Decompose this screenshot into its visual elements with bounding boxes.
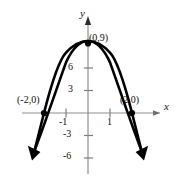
y-tick-label-minus-3: -3: [63, 129, 71, 139]
y-axis-arrowhead: [85, 16, 91, 25]
point-label-x-intercept-left: (-2,0): [17, 95, 40, 105]
y-tick-label-minus-6: -6: [63, 151, 71, 161]
point-label-x-intercept-right: (2,0): [120, 95, 139, 105]
parabola-figure: y x 6 3 -3 -6 -1 1 (0,9) (-2,0) (2,0): [0, 0, 176, 176]
y-tick-label-6: 6: [68, 62, 73, 72]
point-dot-x-intercept-left: [41, 110, 47, 116]
x-tick-label-minus-1: -1: [59, 117, 67, 127]
graph-canvas: [0, 0, 176, 176]
x-axis-arrowhead: [153, 110, 160, 116]
point-dot-x-intercept-right: [129, 110, 135, 116]
x-tick-label-1: 1: [107, 117, 112, 127]
y-tick-label-3: 3: [68, 84, 73, 94]
point-label-vertex: (0,9): [89, 33, 108, 43]
x-axis-label: x: [164, 101, 169, 112]
y-axis-label: y: [80, 8, 85, 19]
